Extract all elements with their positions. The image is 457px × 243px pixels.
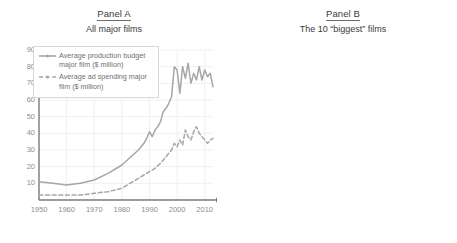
y-tick-label: 20 xyxy=(13,162,35,171)
x-tick-label: 2000 xyxy=(163,205,191,214)
x-tick-label: 1970 xyxy=(80,205,108,214)
panel-a-title-text: Panel A xyxy=(97,8,130,21)
figure-root: Panel A All major films 1020304050607080… xyxy=(0,0,457,243)
legend-item-production-budget: Average production budget major film ($ … xyxy=(39,51,153,69)
y-tick-label: 10 xyxy=(13,178,35,187)
panel-b: Panel B The 10 “biggest” films 501001502… xyxy=(229,0,457,243)
x-tick-label: 1960 xyxy=(53,205,81,214)
y-tick-label: 50 xyxy=(13,112,35,121)
x-tick-label: 2010 xyxy=(191,205,219,214)
panel-a-title: Panel A xyxy=(0,8,228,19)
y-tick-label: 30 xyxy=(13,145,35,154)
legend-label-ad-spending: Average ad spending major film ($ millio… xyxy=(59,72,147,90)
legend-solid-line-icon xyxy=(39,52,56,60)
panel-a-legend: Average production budget major film ($ … xyxy=(33,46,159,98)
x-tick-label: 1980 xyxy=(108,205,136,214)
panel-a-subtitle: All major films xyxy=(0,24,228,34)
y-tick-label: 60 xyxy=(13,95,35,104)
legend-item-ad-spending: Average ad spending major film ($ millio… xyxy=(39,72,153,90)
panel-b-title-text: Panel B xyxy=(326,8,360,21)
x-tick-label: 1990 xyxy=(135,205,163,214)
panel-a: Panel A All major films 1020304050607080… xyxy=(0,0,228,243)
y-tick-label: 90 xyxy=(13,45,35,54)
panel-b-title: Panel B xyxy=(229,8,457,19)
y-tick-label: 70 xyxy=(13,78,35,87)
legend-label-production-budget: Average production budget major film ($ … xyxy=(59,51,145,69)
panel-b-subtitle: The 10 “biggest” films xyxy=(229,24,457,34)
legend-dashed-line-icon xyxy=(39,73,56,81)
x-tick-label: 1950 xyxy=(25,205,53,214)
y-tick-label: 80 xyxy=(13,62,35,71)
y-tick-label: 40 xyxy=(13,128,35,137)
